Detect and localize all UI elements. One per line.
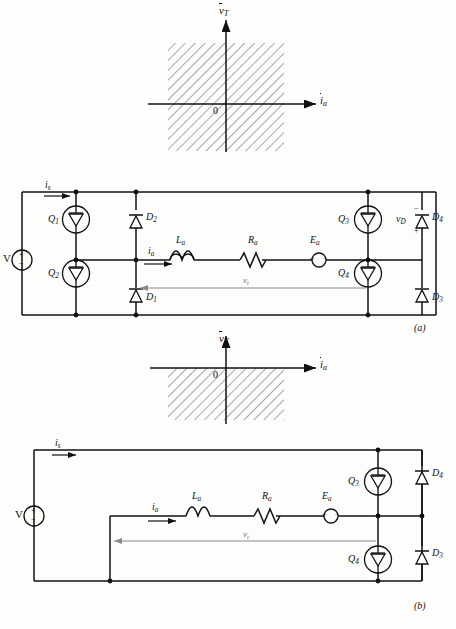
chart2-x-axis-label-base: i [320, 359, 323, 370]
circuit-b-ia-sub: a [155, 506, 159, 514]
figure-page: vT ia 0 is V + − Q1 Q2 Q3 Q4 D2 D1 D4 D3… [0, 0, 456, 629]
circuit-b-emf-minus: − [335, 511, 340, 519]
d2-sub: 2 [153, 216, 157, 224]
q4-sub: 4 [345, 272, 349, 280]
chart1-y-axis-label-base: v [219, 5, 224, 16]
d4-sub: 4 [439, 216, 443, 224]
circuit-a-diode-d1-label: D1 [146, 292, 157, 304]
chart2-x-axis-label: ia [320, 359, 327, 372]
chart2-y-axis-label: vT [219, 333, 228, 346]
circuit-b-diode-d4-label: D4 [432, 468, 443, 480]
chart1-x-axis-label: ia [320, 95, 327, 108]
d3-sub: 3 [439, 296, 443, 304]
circuit-b-inductor-label: La [192, 491, 201, 503]
circuit-a-Ea-sub: a [316, 239, 320, 247]
circuit-a-diode-d4-label: D4 [432, 212, 443, 224]
circuit-b-switch-q3-label: Q3 [348, 476, 359, 488]
circuit-a-source-label: V [3, 253, 11, 264]
circuit-a-ia-sub: a [151, 250, 155, 258]
chart1-origin-label: 0 [213, 106, 218, 116]
circuit-b-supply-current-label: is [55, 438, 61, 450]
circuit-b-emf-label: Ea [322, 491, 332, 503]
circuit-b-La-sub: a [198, 495, 202, 503]
circuit-a-switch-q1-label: Q1 [48, 214, 59, 226]
q1-sub: 1 [55, 218, 59, 226]
circuit-a-is-sub: s [48, 184, 51, 192]
circuit-a-switch-q2-label: Q2 [48, 268, 59, 280]
chart2-y-axis-label-sub: T [224, 337, 228, 346]
b-q3-sub: 3 [355, 480, 359, 488]
b-q4-sub: 4 [355, 558, 359, 566]
circuit-b-switch-q4-label: Q4 [348, 554, 359, 566]
circuit-b-graphic [24, 448, 429, 584]
circuit-a-vt-sub: t [247, 279, 249, 286]
circuit-b-diode-d3-label: D3 [432, 548, 443, 560]
circuit-a-emf-plus: + [310, 255, 315, 263]
circuit-b-source-plus: + [31, 507, 36, 515]
quadrant-chart-four-graphic [148, 20, 316, 152]
figure-vector-layer [0, 0, 456, 629]
circuit-a-diode-d2-label: D2 [146, 212, 157, 224]
circuit-a-resistor-label: Ra [248, 235, 258, 247]
d1-sub: 1 [153, 296, 157, 304]
chart2-origin-label: 0 [213, 370, 218, 380]
circuit-a-vd-plus: + [414, 227, 419, 235]
circuit-a-switch-q3-label: Q3 [338, 214, 349, 226]
circuit-b-Ra-sub: a [268, 495, 272, 503]
vd-sub: D [400, 218, 405, 226]
circuit-b-vt-sub: t [247, 533, 249, 540]
circuit-a-source-plus: + [19, 251, 24, 259]
b-d4-sub: 4 [439, 472, 443, 480]
circuit-a-caption: (a) [414, 322, 426, 333]
circuit-a-emf-label: Ea [310, 235, 320, 247]
circuit-b-armature-current-label: ia [152, 502, 158, 514]
circuit-a-graphic [12, 190, 436, 318]
chart1-y-axis-label-sub: T [224, 9, 228, 18]
circuit-b-terminal-voltage-label: vt [243, 530, 249, 540]
circuit-a-vd-minus: − [414, 205, 419, 213]
chart2-y-axis-label-base: v [219, 333, 224, 344]
circuit-a-switch-q4-label: Q4 [338, 268, 349, 280]
circuit-a-inductor-label: La [176, 235, 185, 247]
q3-sub: 3 [345, 218, 349, 226]
circuit-a-diode-d3-label: D3 [432, 292, 443, 304]
quadrant-chart-two-graphic [150, 336, 316, 424]
circuit-b-source-label: V [15, 509, 23, 520]
circuit-a-La-sub: a [182, 239, 186, 247]
circuit-b-emf-plus: + [322, 511, 327, 519]
circuit-a-emf-minus: − [323, 255, 328, 263]
circuit-b-is-sub: s [58, 442, 61, 450]
circuit-a-diode-voltage-label: vD [396, 214, 406, 226]
circuit-b-source-minus: − [31, 516, 36, 524]
circuit-b-Ea-sub: a [328, 495, 332, 503]
circuit-a-Ra-sub: a [254, 239, 258, 247]
q2-sub: 2 [55, 272, 59, 280]
circuit-a-supply-current-label: is [45, 180, 51, 192]
chart2-x-axis-label-sub: a [323, 363, 327, 372]
chart1-x-axis-label-sub: a [323, 99, 327, 108]
chart1-x-axis-label-base: i [320, 95, 323, 106]
chart1-y-axis-label: vT [219, 5, 228, 18]
circuit-b-caption: (b) [414, 600, 426, 611]
b-d3-sub: 3 [439, 552, 443, 560]
circuit-a-terminal-voltage-label: vt [243, 276, 249, 286]
circuit-b-resistor-label: Ra [262, 491, 272, 503]
circuit-a-source-minus: − [19, 260, 24, 268]
circuit-a-armature-current-label: ia [148, 246, 154, 258]
